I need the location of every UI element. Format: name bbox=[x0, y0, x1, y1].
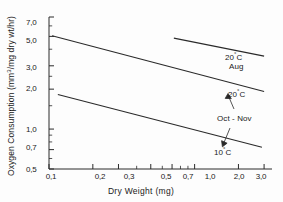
annotation-aug-month: Aug bbox=[229, 62, 244, 71]
oct-lo-temp-value: 10 bbox=[214, 148, 223, 157]
y-axis-title: Oxygen Consumption (mm3/mg dry wt/hr) bbox=[6, 16, 17, 176]
oxygen-consumption-chart: 0,1 0,2 0,3 0,5 0,7 1,0 2,0 3,0 7,0 5,0 … bbox=[0, 0, 283, 202]
x-tick-label-4: 0,7 bbox=[183, 172, 194, 181]
x-tick-label-7: 3,0 bbox=[256, 172, 267, 181]
y-tick-label-2: 3,0 bbox=[26, 63, 37, 72]
x-tick-label-3: 0,5 bbox=[161, 172, 172, 181]
annotation-oct-20c: 20°C bbox=[228, 88, 246, 99]
aug-temp-unit: C bbox=[237, 53, 243, 62]
y-tick-label-5: 0,7 bbox=[26, 143, 37, 152]
y-axis-title-main: Oxygen Consumption (mm bbox=[6, 73, 16, 176]
oct-hi-temp-unit: C bbox=[240, 90, 246, 99]
annotation-oct-nov-season: Oct - Nov bbox=[217, 114, 252, 123]
series-line-0 bbox=[174, 38, 264, 56]
y-axis-major-ticks bbox=[49, 17, 54, 169]
x-tick-label-2: 0,3 bbox=[124, 172, 135, 181]
aug-temp-value: 20 bbox=[225, 53, 234, 62]
y-axis-title-superscript: 3 bbox=[6, 69, 12, 72]
annotation-aug-temperature: 20°C bbox=[225, 51, 243, 62]
y-axis-title-rest: /mg dry wt/hr) bbox=[6, 16, 16, 69]
y-tick-label-4: 1,0 bbox=[26, 125, 37, 134]
oct-hi-temp-value: 20 bbox=[228, 90, 237, 99]
x-axis-title: Dry Weight (mg) bbox=[108, 186, 174, 196]
y-tick-label-3: 2,0 bbox=[26, 84, 37, 93]
oct-lo-temp-unit: C bbox=[226, 148, 232, 157]
y-tick-label-0: 7,0 bbox=[26, 18, 37, 27]
x-tick-label-0: 0,1 bbox=[46, 172, 57, 181]
x-tick-label-6: 2,0 bbox=[234, 172, 245, 181]
x-axis-major-ticks bbox=[49, 164, 264, 169]
y-tick-label-6: 0,5 bbox=[26, 165, 37, 174]
x-tick-label-5: 1,0 bbox=[205, 172, 216, 181]
x-tick-label-1: 0,2 bbox=[95, 172, 106, 181]
annotation-oct-10c: 10°C bbox=[214, 146, 232, 157]
y-tick-label-1: 5,0 bbox=[26, 36, 37, 45]
